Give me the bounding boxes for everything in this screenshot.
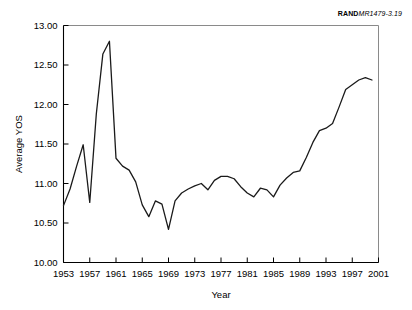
x-tick-label: 1957 — [79, 268, 100, 279]
x-tick-label: 1977 — [210, 268, 231, 279]
x-tick-label: 1989 — [289, 268, 310, 279]
y-tick-label: 12.00 — [34, 99, 58, 110]
x-axis-tick-labels: 1953195719611965196919731977198119851989… — [53, 268, 389, 279]
x-tick-label: 1973 — [184, 268, 205, 279]
x-tick-label: 1969 — [158, 268, 179, 279]
x-tick-label: 1965 — [132, 268, 153, 279]
x-tick-label: 1953 — [53, 268, 74, 279]
y-tick-label: 12.50 — [34, 59, 58, 70]
x-tick-label: 1997 — [342, 268, 363, 279]
y-tick-label: 11.00 — [34, 178, 57, 189]
y-axis-title: Average YOS — [13, 115, 24, 173]
x-tick-label: 1981 — [237, 268, 258, 279]
x-tick-label: 2001 — [368, 268, 389, 279]
y-tick-label: 10.00 — [34, 257, 58, 268]
source-identifier-rand: RAND — [338, 10, 359, 17]
y-tick-label: 10.50 — [34, 217, 58, 228]
x-tick-label: 1993 — [315, 268, 336, 279]
x-axis-title: Year — [211, 289, 230, 300]
source-identifier: RANDMR1479-3.19 — [338, 9, 402, 19]
x-axis-ticks — [64, 258, 379, 263]
line-chart-svg: 10.0010.5011.0011.5012.0012.5013.00 1953… — [0, 0, 412, 310]
chart-figure: RANDMR1479-3.19 10.0010.5011.0011.5012.0… — [0, 0, 412, 310]
y-tick-label: 13.00 — [34, 20, 58, 31]
y-axis-tick-labels: 10.0010.5011.0011.5012.0012.5013.00 — [34, 20, 58, 268]
data-series-average-yos — [64, 41, 372, 229]
x-tick-label: 1985 — [263, 268, 284, 279]
y-tick-label: 11.50 — [34, 138, 57, 149]
y-axis-ticks — [64, 26, 69, 263]
x-tick-label: 1961 — [105, 268, 126, 279]
source-identifier-number: MR1479-3.19 — [358, 10, 402, 17]
